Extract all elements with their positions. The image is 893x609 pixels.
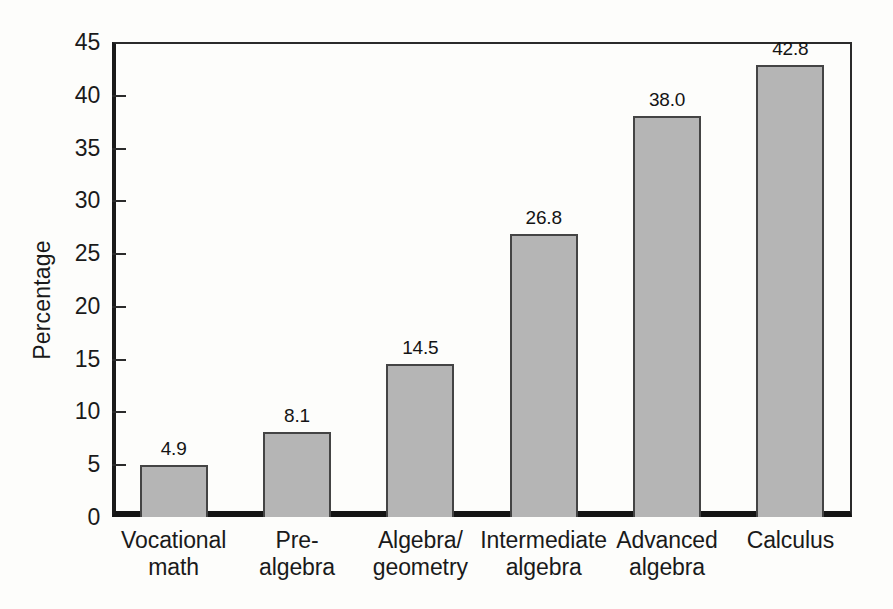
y-tick-label: 20 [0, 294, 100, 317]
bar [386, 364, 454, 517]
x-axis-category-label: Pre-algebra [259, 527, 335, 581]
y-tick-40 [112, 95, 126, 97]
y-tick-15 [112, 359, 126, 361]
bar-chart-figure: Percentage 051015202530354045 4.98.114.5… [0, 0, 893, 609]
x-label-line: Vocational [121, 527, 226, 553]
bar-value-label: 14.5 [402, 337, 438, 359]
y-tick-label: 35 [0, 136, 100, 159]
x-label-line: Calculus [747, 527, 834, 553]
bar-value-label: 4.9 [161, 438, 187, 460]
y-tick-label: 5 [0, 453, 100, 476]
y-tick-label: 30 [0, 189, 100, 212]
y-tick-5 [112, 464, 126, 466]
y-tick-25 [112, 253, 126, 255]
y-tick-label: 0 [0, 506, 100, 529]
y-tick-label: 10 [0, 400, 100, 423]
bar [510, 234, 578, 517]
x-axis-category-label: Algebra/geometry [373, 527, 468, 581]
bar-value-label: 8.1 [284, 405, 310, 427]
bar [633, 116, 701, 517]
x-axis-category-label: Vocationalmath [121, 527, 226, 581]
x-axis-category-label: Advancedalgebra [616, 527, 718, 581]
x-label-line: algebra [259, 554, 335, 581]
y-tick-35 [112, 148, 126, 150]
x-axis-category-label: Intermediatealgebra [480, 527, 607, 581]
bar [756, 65, 824, 517]
y-tick-label: 45 [0, 31, 100, 54]
y-tick-label: 15 [0, 347, 100, 370]
x-label-line: geometry [373, 554, 468, 581]
bar-value-label: 42.8 [772, 38, 808, 60]
x-label-line: math [121, 554, 226, 581]
x-label-line: Pre- [275, 527, 318, 553]
x-label-line: algebra [616, 554, 718, 581]
bar-value-label: 26.8 [526, 207, 562, 229]
bar-value-label: 38.0 [649, 89, 685, 111]
y-tick-label: 25 [0, 242, 100, 265]
bar [140, 465, 208, 517]
x-label-line: algebra [480, 554, 607, 581]
x-axis-category-label: Calculus [747, 527, 834, 554]
y-tick-10 [112, 411, 126, 413]
x-label-line: Advanced [616, 527, 718, 553]
y-tick-20 [112, 306, 126, 308]
x-label-line: Algebra/ [378, 527, 463, 553]
x-label-line: Intermediate [480, 527, 607, 553]
y-tick-label: 40 [0, 83, 100, 106]
y-tick-30 [112, 200, 126, 202]
bar [263, 432, 331, 518]
plot-area [112, 42, 852, 517]
